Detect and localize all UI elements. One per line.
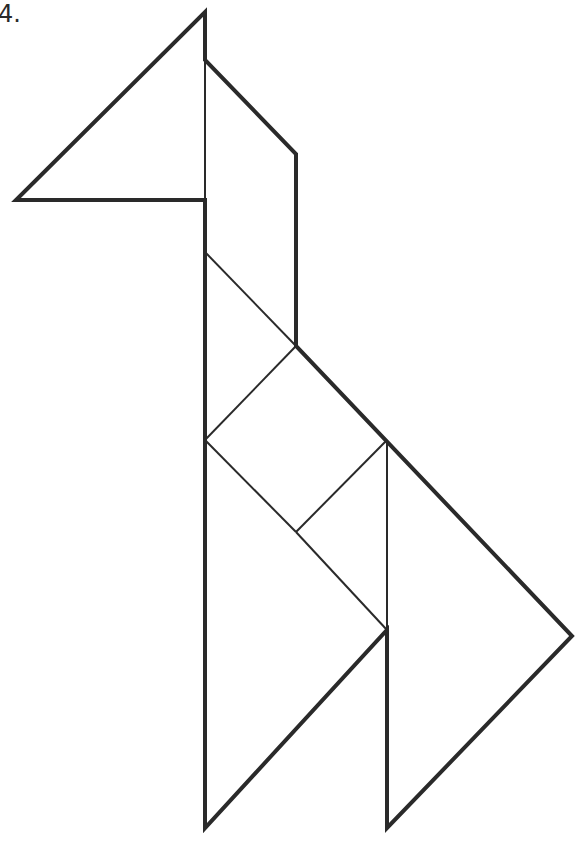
head-outline — [16, 12, 572, 828]
square-lower-left-edge — [205, 440, 296, 532]
outer-silhouette — [16, 12, 572, 828]
left-leg-diagonal-upper — [296, 532, 387, 630]
neck-lower-diagonal — [205, 252, 296, 346]
tangram-giraffe-figure — [0, 0, 576, 846]
square-lower-right-edge — [296, 440, 387, 532]
square-upper-left-edge — [205, 346, 296, 440]
